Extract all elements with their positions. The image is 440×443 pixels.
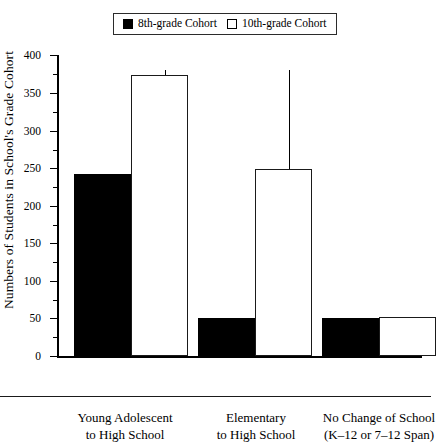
y-tick-minor-175 [53, 225, 57, 226]
y-tick-minor-375 [53, 74, 57, 75]
y-tick-300: 300 [50, 131, 57, 132]
y-tick-label-0: 0 [35, 350, 41, 362]
legend-entry-8th-grade: 8th-grade Cohort [123, 18, 217, 30]
cat-label-line1-elementary: Elementary [226, 410, 286, 425]
y-tick-label-50: 50 [30, 312, 42, 324]
y-tick-350: 350 [50, 93, 57, 94]
bar-8th-grade-elementary [198, 318, 255, 356]
bar-10th-grade-young-adolescent [131, 75, 188, 356]
y-tick-minor-75 [53, 300, 57, 301]
x-category-label-no-change: No Change of School (K–12 or 7–12 Span) [297, 410, 440, 443]
plot-area: 0 50 100 150 200 250 300 350 400 [57, 50, 422, 356]
legend-entry-10th-grade: 10th-grade Cohort [227, 18, 327, 30]
y-tick-label-150: 150 [24, 237, 41, 249]
y-axis-line [57, 55, 59, 356]
legend-swatch-hollow-icon [227, 19, 237, 29]
y-tick-minor-325 [53, 112, 57, 113]
cat-label-line2-no-change: (K–12 or 7–12 Span) [297, 427, 440, 443]
legend-swatch-filled-icon [123, 19, 133, 29]
cat-label-line1-no-change: No Change of School [323, 410, 435, 425]
chart-legend: 8th-grade Cohort 10th-grade Cohort [113, 13, 337, 35]
y-tick-150: 150 [50, 243, 57, 244]
y-tick-400: 400 [50, 55, 57, 56]
y-tick-label-100: 100 [24, 275, 41, 287]
y-tick-minor-225 [53, 187, 57, 188]
y-axis-title: Numbers of Students in School's Grade Co… [0, 0, 18, 360]
y-tick-label-250: 250 [24, 162, 41, 174]
figure-bottom-rule [0, 396, 431, 397]
bar-10th-grade-no-change [379, 317, 436, 356]
y-tick-minor-25 [53, 337, 57, 338]
y-tick-200: 200 [50, 206, 57, 207]
y-tick-label-300: 300 [24, 125, 41, 137]
y-tick-label-350: 350 [24, 87, 41, 99]
y-tick-0: 0 [50, 356, 57, 357]
bar-8th-grade-young-adolescent [74, 174, 131, 356]
bar-10th-grade-elementary [255, 169, 312, 356]
y-tick-50: 50 [50, 318, 57, 319]
legend-label-10th-grade: 10th-grade Cohort [242, 18, 327, 30]
legend-label-8th-grade: 8th-grade Cohort [138, 18, 217, 30]
y-tick-minor-125 [53, 262, 57, 263]
y-tick-minor-275 [53, 150, 57, 151]
y-tick-label-400: 400 [24, 49, 41, 61]
y-tick-250: 250 [50, 168, 57, 169]
y-tick-100: 100 [50, 281, 57, 282]
y-tick-label-200: 200 [24, 200, 41, 212]
x-axis-baseline [57, 356, 422, 358]
bar-8th-grade-no-change [322, 318, 379, 356]
cat-label-line1-young-adolescent: Young Adolescent [77, 410, 172, 425]
